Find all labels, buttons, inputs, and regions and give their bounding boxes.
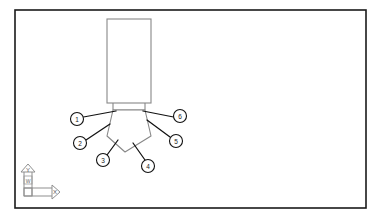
balloon-4-label: 4: [146, 163, 150, 170]
balloon-2[interactable]: 2: [74, 137, 87, 150]
balloon-5-label: 5: [174, 138, 178, 145]
balloon-2-label: 2: [78, 140, 82, 147]
technical-drawing-svg: 123456 Y X W: [0, 0, 381, 221]
balloon-3[interactable]: 3: [97, 154, 110, 167]
cad-drawing-canvas: 123456 Y X W: [0, 0, 381, 221]
balloon-5[interactable]: 5: [170, 135, 183, 148]
part-geometry: [107, 19, 151, 152]
paper-background: [0, 0, 381, 221]
x-axis-label: X: [53, 189, 57, 195]
balloon-3-label: 3: [101, 157, 105, 164]
balloon-1-label: 1: [75, 116, 79, 123]
balloon-4[interactable]: 4: [142, 160, 155, 173]
extruded-block-outline: [107, 19, 151, 103]
balloon-1[interactable]: 1: [71, 113, 84, 126]
world-coordinate-mark: W: [26, 178, 31, 184]
balloon-6-label: 6: [178, 113, 182, 120]
y-axis-label: Y: [26, 167, 30, 173]
balloon-6[interactable]: 6: [174, 110, 187, 123]
